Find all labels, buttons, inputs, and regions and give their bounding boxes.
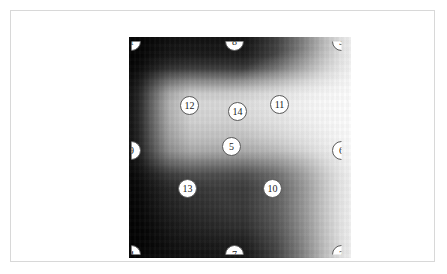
marker-14[interactable]: 14	[228, 102, 247, 121]
marker-11[interactable]: 11	[270, 95, 289, 114]
screenshot-root: 1831214119561310472	[0, 0, 447, 274]
figure-caption	[14, 266, 433, 274]
image-region[interactable]: 1831214119561310472	[129, 37, 351, 258]
marker-8[interactable]: 8	[225, 32, 244, 51]
marker-5[interactable]: 5	[222, 137, 241, 156]
marker-1[interactable]: 1	[122, 32, 141, 51]
figure-card: 1831214119561310472	[10, 10, 435, 262]
marker-13[interactable]: 13	[178, 179, 197, 198]
marker-12[interactable]: 12	[180, 96, 199, 115]
marker-10[interactable]: 10	[263, 179, 282, 198]
marker-9[interactable]: 9	[122, 141, 141, 160]
